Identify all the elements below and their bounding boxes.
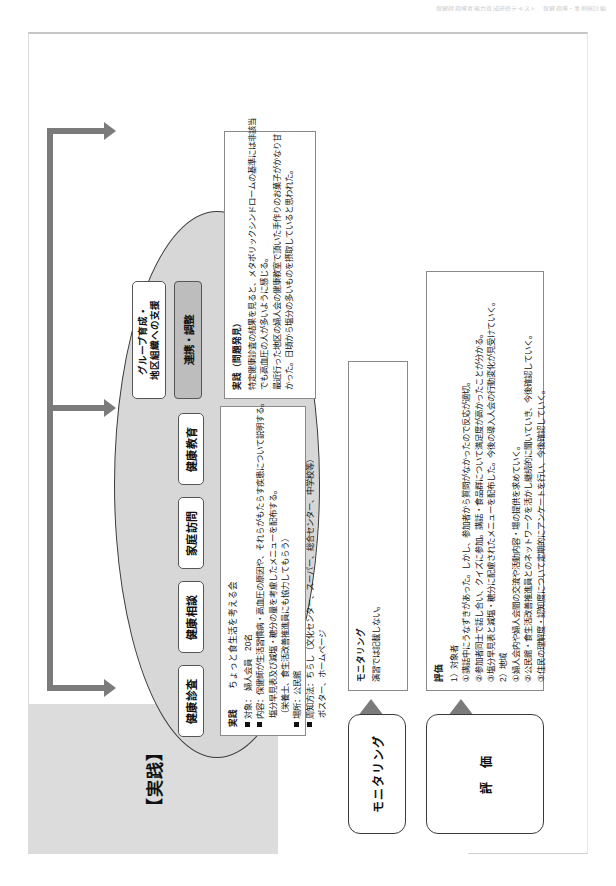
practice-detail-line: （栄養士、食生活改善推進員にも協力してもらう） — [279, 415, 291, 727]
practice-detail-line: ポスター、ホームページ — [316, 415, 328, 727]
practice-detail-line-text: 対象： 婦人会員 20名 — [243, 634, 253, 719]
practice-detail-line: 場所：公民館 — [291, 415, 303, 727]
evaluation-group-title: 2）地域 — [497, 280, 509, 682]
coordination-chip[interactable]: 連携・調整 — [174, 281, 202, 399]
evaluation-item: ②参加者同士で話し合い、クイズに参加。講話・食品群について満足度が高かったことが… — [473, 280, 485, 682]
method-chip-katei-houmon[interactable]: 家庭訪問 — [178, 497, 204, 569]
problem-discovery-heading: 実践（問題発見） — [231, 140, 244, 390]
practice-detail-line: 塩分早見表及び減塩・糖分の量を考慮したメニューを配布する。 — [267, 415, 279, 727]
monitoring-heading: モニタリング — [355, 370, 368, 682]
group-support-line2: 地区組織への支援 — [149, 300, 160, 380]
problem-discovery-line: 特定健康診査の結果を見ると、メタボリックシンドロームの基準には非該当 — [246, 140, 258, 390]
monitoring-box: モニタリング 演習では記載しない。 — [348, 361, 408, 691]
practice-detail-line-text: 場所：公民館 — [292, 671, 302, 719]
practice-detail-line: 内容：保健師が生活習慣病・高血圧の原因や、それらがもたらす疾患について説明する。 — [254, 415, 266, 727]
scan-header: 保健師指導者能力育成研修テキスト 保健指導・事例検討編 — [436, 4, 606, 11]
problem-discovery-box: 実践（問題発見） 特定健康診査の結果を見ると、メタボリックシンドロームの基準には… — [224, 131, 316, 399]
method-chip-kenkou-soudan[interactable]: 健康相談 — [178, 581, 204, 653]
flow-connector-2 — [47, 405, 105, 411]
diagram-canvas: 【実践】 【評価】 健康診査 健康相談 家庭訪問 健康教育 グループ育成・ 地区… — [28, 32, 588, 854]
practice-detail-line: 周知方法：ちらし（文化センター、スーパー、総合センター、中学校等） — [304, 415, 316, 727]
evaluation-item: ①婦人会内や婦人会間の交流や活動内容・場の提供を求めていく。 — [510, 280, 522, 682]
band-practice-label: 【実践】 — [141, 743, 166, 815]
group-support-chip[interactable]: グループ育成・ 地区組織への支援 — [132, 281, 166, 399]
practice-detail-box: 実践 ちょっと食生活を考える会 対象： 婦人会員 20名 内容：保健師が生活習慣… — [220, 406, 306, 736]
evaluation-item: ②公民館・食生活改善推進員とのネットワークを活かし継続的に聞いていき、今後確認し… — [522, 280, 534, 682]
flow-connector-3 — [47, 128, 105, 134]
method-chip-kenkou-shinsa[interactable]: 健康診査 — [178, 665, 204, 737]
evaluation-group-title: 1）対象者 — [448, 280, 460, 682]
practice-detail-line-text: 内容：保健師が生活習慣病・高血圧の原因や、それらがもたらす疾患について説明する。 — [255, 399, 265, 719]
evaluation-box: 評価 1）対象者 ①講話中にうなずきがあった。しかし、参加者から質問がなかったの… — [426, 271, 544, 691]
practice-detail-line-text: 周知方法：ちらし（文化センター、スーパー、総合センター、中学校等） — [305, 455, 315, 719]
problem-discovery-line: かった。日頃から塩分の多いものを摂取していると思われた。 — [283, 140, 295, 390]
evaluation-item: ③塩分早見表と減塩・糖分に配慮されたメニューを配布した。今後の導入人会の行動変化… — [485, 280, 497, 682]
practice-detail-line-text: 塩分早見表及び減塩・糖分の量を考慮したメニューを配布する。 — [268, 486, 278, 718]
stage-chip-monitoring[interactable]: モニタリング — [348, 714, 406, 834]
evaluation-item: ③住民の理解度・認知度について定期的にアンケートを行い、今後確認していく。 — [535, 280, 547, 682]
flow-connector-1 — [47, 685, 105, 691]
evaluation-item: ①講話中にうなずきがあった。しかし、参加者から質問がなかったので反応が適切。 — [460, 280, 472, 682]
practice-detail-line-text: ポスター、ホームページ — [317, 630, 327, 718]
practice-detail-line: 対象： 婦人会員 20名 — [242, 415, 254, 727]
evaluation-heading: 評価 — [433, 280, 446, 682]
practice-detail-heading: 実践 — [228, 709, 238, 727]
practice-detail-subtitle: ちょっと食生活を考える会 — [228, 581, 238, 689]
method-chip-kenkou-kyouiku[interactable]: 健康教育 — [178, 413, 204, 485]
monitoring-body: 演習では記載しない。 — [370, 370, 382, 682]
problem-discovery-line: でも高血圧の人が多いように感じる。 — [258, 140, 270, 390]
group-support-line1: グループ育成・ — [137, 306, 148, 375]
practice-detail-line-text: （栄養士、食生活改善推進員にも協力してもらう） — [280, 534, 290, 718]
problem-discovery-line: 最近行った地区の婦人会の健康教室で頂いた手作りのお菓子がかなり甘 — [271, 140, 283, 390]
stage-chip-evaluation[interactable]: 評 価 — [426, 714, 544, 834]
